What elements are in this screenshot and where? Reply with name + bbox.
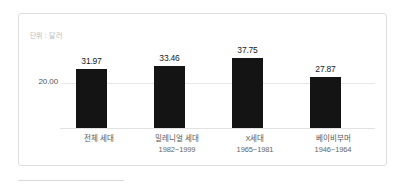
bar-value-label: 33.46 — [138, 53, 201, 63]
bar[interactable] — [232, 58, 263, 128]
unit-note: 단위 : 달러 — [30, 30, 62, 40]
x-axis-label-group: 전체 세대 — [56, 133, 142, 144]
y-axis-tick-label: 20.00 — [26, 77, 58, 86]
x-axis-years: 1982~1999 — [134, 144, 220, 156]
bar-value-label: 31.97 — [60, 56, 123, 66]
x-axis-category: 전체 세대 — [56, 133, 142, 144]
chart-page: 단위 : 달러 20.00 31.97 33.46 37.75 27.87 — [0, 0, 407, 196]
x-axis-category: 밀레니얼 세대 — [134, 133, 220, 144]
bar[interactable] — [154, 66, 185, 128]
x-axis-category: 베이비부머 — [290, 133, 376, 144]
bar[interactable] — [310, 77, 341, 128]
footer-divider — [18, 180, 124, 181]
bar-group: 37.75 — [216, 44, 294, 128]
x-axis-years: 1965~1981 — [212, 144, 298, 156]
bar-group: 27.87 — [294, 44, 372, 128]
bar-value-label: 27.87 — [294, 64, 357, 74]
bar-group: 33.46 — [138, 44, 216, 128]
bar-value-label: 37.75 — [216, 45, 279, 55]
bar-group: 31.97 — [60, 44, 138, 128]
x-axis-label-group: 밀레니얼 세대 1982~1999 — [134, 133, 220, 156]
plot-area: 31.97 33.46 37.75 27.87 — [60, 44, 372, 128]
x-axis-label-group: X세대 1965~1981 — [212, 133, 298, 156]
x-axis-years: 1946~1964 — [290, 144, 376, 156]
x-axis-label-group: 베이비부머 1946~1964 — [290, 133, 376, 156]
x-axis-labels: 전체 세대 밀레니얼 세대 1982~1999 X세대 1965~1981 베이… — [60, 133, 372, 165]
x-axis-category: X세대 — [212, 133, 298, 144]
bar[interactable] — [76, 69, 107, 128]
bar-series: 31.97 33.46 37.75 27.87 — [60, 44, 372, 128]
axis-baseline — [60, 128, 375, 129]
